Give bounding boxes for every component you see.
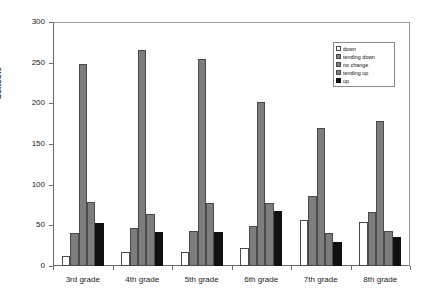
bar-7th-grade-no-change <box>317 128 325 266</box>
bar-3rd-grade-tending-down <box>70 233 78 266</box>
x-tick-mark <box>53 266 54 270</box>
bar-8th-grade-up <box>393 237 401 266</box>
x-tick-mark <box>172 266 173 270</box>
y-tick-label: 250 <box>32 58 45 67</box>
y-axis-title: Schools <box>0 38 3 128</box>
legend-label: up <box>343 78 349 84</box>
bar-6th-grade-tending-down <box>249 226 257 266</box>
bar-7th-grade-tending-down <box>308 196 316 266</box>
bar-4th-grade-down <box>121 252 129 266</box>
y-tick-label: 200 <box>32 98 45 107</box>
y-tick-label: 0 <box>41 261 45 270</box>
legend-item-down[interactable]: down <box>336 45 392 52</box>
bar-3rd-grade-tending-up <box>87 202 95 266</box>
y-tick-label: 300 <box>32 17 45 26</box>
bar-3rd-grade-down <box>62 256 70 266</box>
bar-7th-grade-up <box>333 242 341 266</box>
bar-6th-grade-down <box>240 248 248 266</box>
legend-item-tending-down[interactable]: tending down <box>336 53 392 60</box>
bar-chart: Schools 050100150200250300 3rd grade4th … <box>0 0 426 301</box>
x-axis-label: 4th grade <box>113 275 173 284</box>
y-tick-label: 150 <box>32 139 45 148</box>
y-tick-label: 50 <box>36 220 45 229</box>
x-tick-mark <box>291 266 292 270</box>
legend-item-up[interactable]: up <box>336 77 392 84</box>
legend-label: no change <box>343 62 368 68</box>
x-axis-label: 3rd grade <box>53 275 113 284</box>
bar-7th-grade-tending-up <box>325 233 333 266</box>
bar-3rd-grade-no-change <box>79 64 87 266</box>
x-axis-label: 5th grade <box>172 275 232 284</box>
legend-item-no-change[interactable]: no change <box>336 61 392 68</box>
x-tick-mark <box>232 266 233 270</box>
bar-8th-grade-tending-up <box>384 231 392 266</box>
bar-5th-grade-tending-down <box>189 231 197 266</box>
legend-label: tending up <box>343 70 368 76</box>
x-tick-mark <box>351 266 352 270</box>
bar-5th-grade-up <box>214 232 222 266</box>
legend-swatch-icon <box>336 70 341 75</box>
legend-item-tending-up[interactable]: tending up <box>336 69 392 76</box>
legend-label: tending down <box>343 54 375 60</box>
bar-5th-grade-tending-up <box>206 203 214 266</box>
bar-7th-grade-down <box>300 220 308 266</box>
bar-5th-grade-no-change <box>198 59 206 266</box>
chart-legend: downtending downno changetending upup <box>333 42 395 87</box>
bar-4th-grade-tending-up <box>146 214 154 266</box>
bar-6th-grade-up <box>274 211 282 266</box>
bar-3rd-grade-up <box>95 223 103 266</box>
legend-swatch-icon <box>336 62 341 67</box>
legend-swatch-icon <box>336 54 341 59</box>
x-tick-mark <box>410 266 411 270</box>
x-axis-label: 7th grade <box>291 275 351 284</box>
y-tick-label: 100 <box>32 180 45 189</box>
bar-4th-grade-no-change <box>138 50 146 266</box>
bar-4th-grade-tending-down <box>130 228 138 266</box>
bar-6th-grade-tending-up <box>265 203 273 266</box>
x-axis-label: 8th grade <box>351 275 411 284</box>
legend-swatch-icon <box>336 46 341 51</box>
x-axis-label: 6th grade <box>232 275 292 284</box>
bar-8th-grade-tending-down <box>368 212 376 266</box>
bar-6th-grade-no-change <box>257 102 265 266</box>
x-tick-mark <box>113 266 114 270</box>
bar-4th-grade-up <box>155 232 163 266</box>
legend-label: down <box>343 46 356 52</box>
bar-5th-grade-down <box>181 252 189 266</box>
legend-swatch-icon <box>336 78 341 83</box>
bar-8th-grade-down <box>359 222 367 266</box>
bar-8th-grade-no-change <box>376 121 384 266</box>
